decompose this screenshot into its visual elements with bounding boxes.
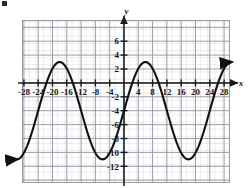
y-tick-label: -4 bbox=[112, 106, 120, 116]
y-axis-label: y bbox=[124, 6, 130, 16]
y-tick-label: 6 bbox=[115, 36, 120, 46]
y-tick-label: -12 bbox=[107, 162, 119, 172]
x-tick-label: 16 bbox=[177, 87, 187, 97]
graph-figure: x -28 -24 -20 -16 -12 -8 -4 4 8 12 16 20… bbox=[0, 0, 251, 188]
x-tick-label: 20 bbox=[191, 87, 201, 97]
x-tick-label: 28 bbox=[220, 87, 230, 97]
coordinate-plane: x -28 -24 -20 -16 -12 -8 -4 4 8 12 16 20… bbox=[0, 0, 251, 188]
x-axis-label: x bbox=[238, 78, 244, 88]
y-tick-label: 2 bbox=[115, 64, 120, 74]
x-tick-label: 12 bbox=[162, 87, 172, 97]
x-tick-label: -8 bbox=[92, 87, 100, 97]
y-tick-label: -2 bbox=[112, 92, 120, 102]
y-tick-label: 4 bbox=[115, 50, 120, 60]
x-tick-label: -16 bbox=[61, 87, 73, 97]
x-tick-label: 8 bbox=[150, 87, 155, 97]
x-tick-label: -20 bbox=[47, 87, 59, 97]
problem-label-mark bbox=[2, 1, 7, 6]
x-tick-label: -28 bbox=[18, 87, 30, 97]
x-tick-label: 4 bbox=[136, 87, 141, 97]
